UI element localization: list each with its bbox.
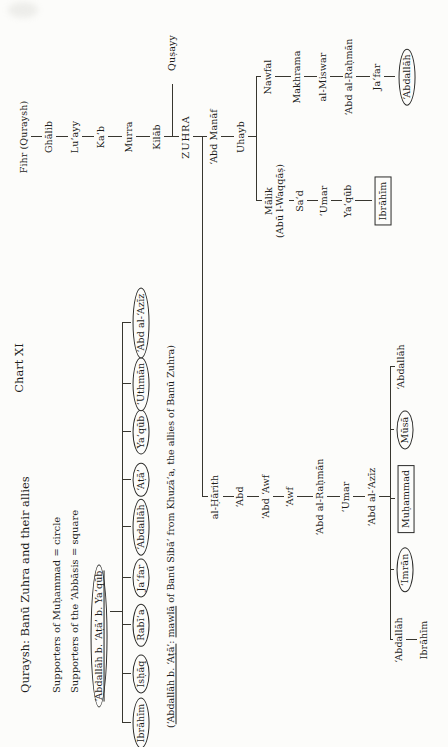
connector-line <box>202 137 203 497</box>
node-qusayy: Quṣayy <box>167 35 178 71</box>
footnote-part-1: ‘Abdallāh b. ‘Aṭā’ <box>165 644 176 725</box>
connector-line <box>390 498 395 499</box>
connector-line <box>122 322 131 323</box>
node-ghalib: Ghālib <box>44 121 55 153</box>
connector-line <box>122 673 131 674</box>
connector-line <box>56 136 68 137</box>
chart-title: Quraysh: Banū Zuhra and their allies <box>18 476 32 693</box>
connector-line <box>297 496 313 497</box>
node-fihr-quraysh: Fihr (Quraysh) <box>19 101 30 174</box>
connector-line <box>82 136 94 137</box>
node-abd: ‘Abd <box>235 486 246 507</box>
connector-line <box>247 496 259 497</box>
node-uhayb: Uhayb <box>236 121 247 153</box>
node-ata: ‘Aṭā’ <box>133 463 150 497</box>
node-ibrahim-b-yaqub: Ibrāhīm <box>375 177 392 226</box>
connector-line <box>223 496 234 497</box>
connector-line <box>327 496 340 497</box>
node-murra: Murra <box>124 121 135 152</box>
node-abd-manaf: ‘Abd Manāf <box>209 109 220 165</box>
node-ishaq: Isḥāq <box>133 655 150 694</box>
node-luayy: Lu’ayy <box>70 121 81 153</box>
node-awf: ‘Awf <box>285 487 296 507</box>
connector-line <box>330 76 343 77</box>
legend-circle-entry: Supporters of Muḥammad = circle <box>51 517 62 693</box>
connector-line <box>379 496 390 497</box>
node-uthman: ‘Uthmān <box>133 357 150 411</box>
node-abdallah-b-jafar: ‘Abdallāh <box>399 48 416 105</box>
connector-line <box>356 76 370 77</box>
node-abdallah-2-b-abd-al-aziz: ‘Abdallāh <box>394 617 405 662</box>
node-abdallah-b-ata-b-yaqub: ‘Abdallāh b. ‘Aṭā’ b. Ya‘qūb <box>91 564 108 707</box>
connector-line <box>122 479 131 480</box>
node-al-harith: al-Ḥārith <box>210 475 221 519</box>
connector-line <box>202 496 208 497</box>
node-rabia: Rabī‘a <box>133 603 150 646</box>
node-umar-b-sad: ‘Umar <box>319 186 330 217</box>
connector-line <box>390 639 393 640</box>
connector-line <box>331 200 342 201</box>
connector-line <box>110 611 122 612</box>
connector-line <box>353 496 365 497</box>
node-makhrama: Makhrama <box>292 51 303 104</box>
node-abdallah-1-b-abd-al-aziz: ‘Abdallāh <box>396 344 407 389</box>
connector-line <box>390 367 391 640</box>
node-yaqub-b-umar: Ya‘qūb <box>343 184 354 217</box>
footnote: (‘Abdallāh b. ‘Aṭā’: mawlā of Banū Sibā‘… <box>165 345 176 728</box>
node-abdallah-b-abdallah-b-ata: ‘Abdallāh <box>133 498 150 555</box>
node-ibrahim-b-abdallah-b-ata: Ibrāhīm <box>133 698 150 747</box>
node-kilab: Kilāb <box>152 124 163 149</box>
connector-line <box>307 200 318 201</box>
node-al-miswar: al-Miswar <box>318 53 329 102</box>
connector-line <box>122 526 131 527</box>
node-abd-awf: ‘Abd ‘Awf <box>261 475 272 520</box>
connector-line <box>256 76 261 77</box>
node-malik-abu-l-waqqas: Mālik(Abū l-Waqqāṣ) <box>264 164 286 238</box>
footnote-part-0: ( <box>165 724 176 728</box>
connector-line <box>122 722 131 723</box>
node-jafar-b-abd-al-rahman: Ja‘far <box>372 64 383 91</box>
footnote-part-4: of Banū Sibā‘ from Khuzā‘a, the allies o… <box>165 345 176 606</box>
legend-square-entry: Supporters of the ‘Abbāsis = square <box>69 510 80 693</box>
node-malik-abu-l-waqqas-line2: (Abū l-Waqqāṣ) <box>275 164 286 238</box>
connector-line <box>275 76 291 77</box>
connector-line <box>256 200 262 201</box>
connector-line <box>384 76 395 77</box>
connector-line <box>221 136 234 137</box>
connector-line <box>390 429 394 430</box>
connector-line <box>289 200 294 201</box>
connector-line <box>122 577 131 578</box>
connector-line <box>248 136 256 137</box>
connector-line <box>172 84 173 137</box>
connector-line <box>31 136 42 137</box>
node-yaqub-b-abdallah-b-ata: Ya‘qūb <box>133 409 150 454</box>
node-kab: Ka‘b <box>96 126 107 148</box>
node-abd-al-aziz-b-abdallah-b-ata: ‘Abd al-‘Azīz <box>133 288 150 359</box>
connector-line <box>355 200 372 201</box>
chart-number-label: Chart XI <box>12 343 26 393</box>
node-abd-al-rahman-b-awf: ‘Abd al-Raḥmān <box>315 458 326 535</box>
node-abd-al-rahman-b-al-miswar: ‘Abd al-Raḥmān <box>344 38 355 115</box>
node-abd-al-aziz-b-umar: ‘Abd al-‘Azīz <box>367 468 378 527</box>
scan-smudge <box>8 2 38 18</box>
footnote-part-2: : <box>165 637 176 643</box>
connector-line <box>256 77 257 201</box>
node-jafar-b-abdallah-b-ata: Ja‘far <box>133 559 150 598</box>
node-nawfal: Nawfal <box>263 60 274 95</box>
connector-line <box>193 136 207 137</box>
connector-line <box>122 383 131 384</box>
node-zuhra: ZUHRA <box>180 115 192 158</box>
node-ibrahim-b-abdallah: Ibrāhīm <box>419 621 430 660</box>
connector-line <box>122 624 131 625</box>
node-musa: Mūsā <box>397 411 414 450</box>
genealogy-chart-canvas: Chart XI Quraysh: Banū Zuhra and their a… <box>0 0 448 747</box>
book-page: Chart XI Quraysh: Banū Zuhra and their a… <box>0 0 448 747</box>
node-umar-b-abd-al-rahman: ‘Umar <box>341 482 352 513</box>
connector-line <box>108 136 122 137</box>
connector-line <box>136 136 150 137</box>
node-imran: ‘Imrān <box>397 548 414 593</box>
connector-line <box>390 569 394 570</box>
node-sad: Sa‘d <box>295 190 306 212</box>
connector-line <box>406 639 417 640</box>
node-muhammad: Muḥammad <box>398 465 415 533</box>
